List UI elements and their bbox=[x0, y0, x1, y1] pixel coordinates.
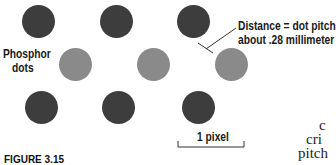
distance-label-line1: Distance = dot pitch bbox=[238, 19, 336, 33]
phosphor-label-line1: Phosphor bbox=[3, 47, 51, 61]
phosphor-label-line2: dots bbox=[3, 61, 51, 75]
pixel-label: 1 pixel bbox=[197, 130, 229, 144]
body-text-fragment: pitch bbox=[298, 145, 328, 162]
dot-pitch-label: Distance = dot pitch about .28 millimete… bbox=[238, 19, 336, 47]
distance-label-line2: about .28 millimeter bbox=[238, 33, 336, 47]
phosphor-dots-label: Phosphor dots bbox=[3, 47, 51, 75]
figure-caption: FIGURE 3.15 bbox=[4, 154, 64, 165]
